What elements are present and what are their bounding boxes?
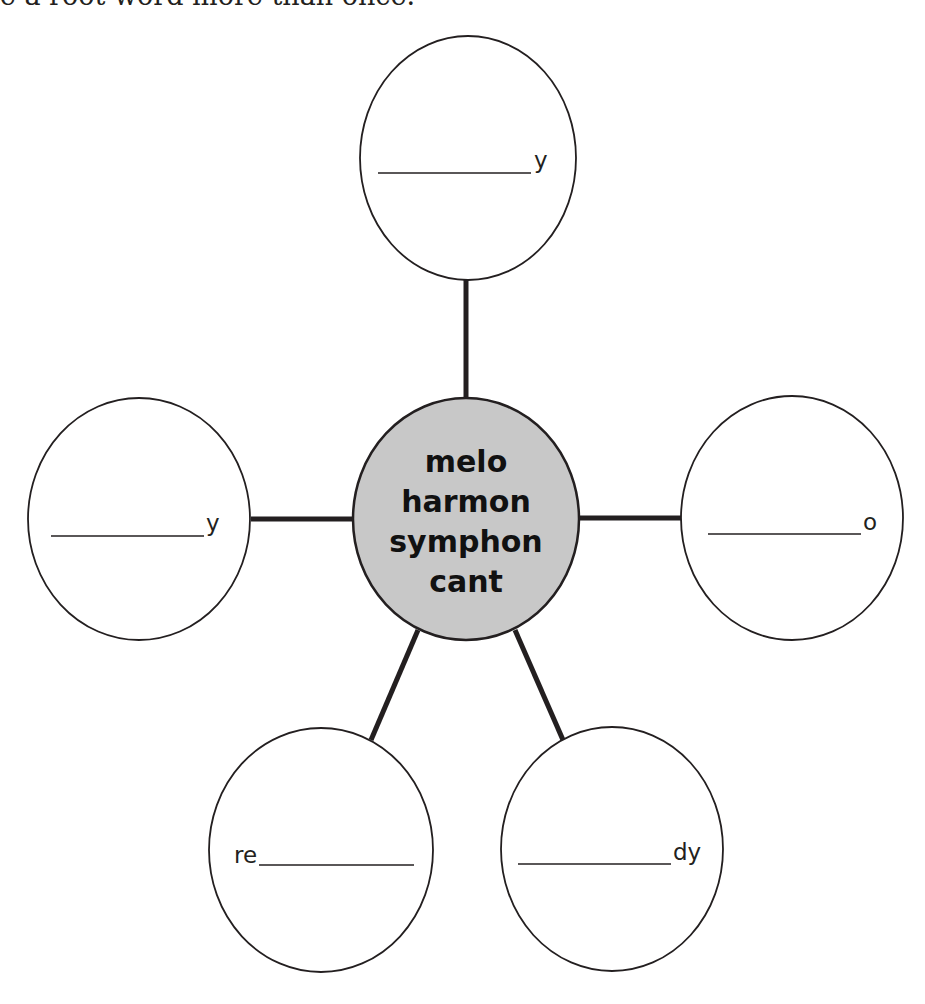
prefix-text: re <box>234 842 257 868</box>
leaf-left: y <box>28 398 250 640</box>
leaf-right: o <box>681 396 903 640</box>
leaf-bottom-right: dy <box>501 727 723 971</box>
center-node: melo harmon symphon cant <box>353 398 579 640</box>
connector-bottom-left <box>371 630 418 740</box>
root-symphon: symphon <box>389 524 542 559</box>
leaf-top: y <box>360 36 576 280</box>
root-melo: melo <box>425 444 508 479</box>
leaf-bottom-left: re <box>209 728 433 972</box>
suffix-text: y <box>534 147 548 173</box>
connector-bottom-right <box>515 630 563 740</box>
root-harmon: harmon <box>401 484 531 519</box>
center-circle <box>353 398 579 640</box>
suffix-text: dy <box>673 839 701 865</box>
suffix-text: y <box>206 510 220 536</box>
root-cant: cant <box>429 564 503 599</box>
suffix-text: o <box>863 509 877 535</box>
word-web-diagram: melo harmon symphon cant y y o re dy <box>0 0 925 1004</box>
